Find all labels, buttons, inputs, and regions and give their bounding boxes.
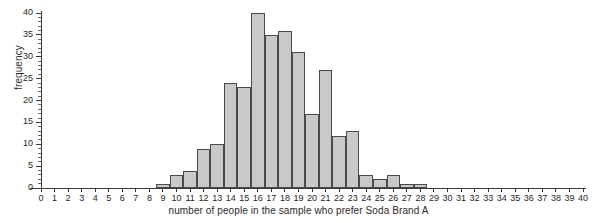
y-tick-label: 5 [8,160,33,170]
histogram-bar [319,70,333,188]
y-tick-label: 40 [8,7,33,17]
histogram-bar [183,171,197,189]
x-tick-mark [298,188,299,192]
histogram-bar [292,52,306,188]
x-tick-mark [81,188,82,192]
histogram-bar [156,184,170,188]
x-tick-mark [339,188,340,192]
histogram-bar [387,175,401,188]
y-tick-label: 15 [8,116,33,126]
x-tick-mark [230,188,231,192]
histogram-bar [359,175,373,188]
x-tick-mark [108,188,109,192]
histogram-chart: frequency 0510152025303540 0123456789101… [0,0,597,223]
x-tick-mark [569,188,570,192]
x-tick-mark [122,188,123,192]
histogram-bar [346,131,360,188]
histogram-bar [237,87,251,188]
histogram-bar [224,83,238,188]
x-tick-mark [515,188,516,192]
histogram-bar [210,144,224,188]
histogram-bar [278,31,292,189]
x-tick-mark [217,188,218,192]
histogram-bar [170,175,184,188]
x-tick-mark [420,188,421,192]
x-tick-mark [325,188,326,192]
x-tick-mark [474,188,475,192]
x-axis-line [30,188,586,189]
x-tick-mark [244,188,245,192]
plot-area [41,13,583,188]
x-tick-mark [312,188,313,192]
histogram-bar [332,136,346,189]
x-tick-mark [203,188,204,192]
x-tick-mark [406,188,407,192]
histogram-bar [400,184,414,188]
x-tick-mark [162,188,163,192]
histogram-bar [414,184,428,188]
y-axis-title: frequency [13,8,24,128]
x-axis-title: number of people in the sample who prefe… [0,205,597,216]
x-tick-mark [393,188,394,192]
x-tick-mark [41,188,42,192]
x-tick-mark [95,188,96,192]
x-tick-mark [447,188,448,192]
x-tick-mark [488,188,489,192]
x-tick-mark [583,188,584,192]
x-tick-mark [257,188,258,192]
x-tick-mark [555,188,556,192]
x-tick-mark [528,188,529,192]
y-tick-label: 30 [8,51,33,61]
x-tick-mark [366,188,367,192]
y-tick-label: 35 [8,29,33,39]
x-tick-mark [284,188,285,192]
x-tick-mark [54,188,55,192]
x-tick-label: 40 [574,193,592,203]
x-tick-mark [501,188,502,192]
x-tick-mark [149,188,150,192]
histogram-bar [265,35,279,188]
x-tick-mark [176,188,177,192]
histogram-bar [251,13,265,188]
x-tick-mark [379,188,380,192]
histogram-bar [373,179,387,188]
x-tick-mark [135,188,136,192]
x-tick-mark [271,188,272,192]
x-tick-mark [68,188,69,192]
y-tick-label: 20 [8,95,33,105]
histogram-bar [305,114,319,188]
y-tick-label: 10 [8,138,33,148]
x-tick-mark [542,188,543,192]
x-tick-mark [461,188,462,192]
x-tick-mark [433,188,434,192]
x-tick-mark [190,188,191,192]
x-tick-mark [352,188,353,192]
histogram-bar [197,149,211,188]
y-tick-label: 25 [8,73,33,83]
y-tick-label: 0 [8,182,33,192]
